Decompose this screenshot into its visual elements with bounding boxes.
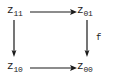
arrow-left-z11-to-z10 (8, 20, 20, 58)
node-z10: z10 (7, 61, 23, 74)
node-z10-base: z (7, 60, 14, 72)
arrow-right-z01-to-z00 (81, 20, 93, 58)
arrow-bottom-z10-to-z00 (30, 62, 78, 74)
node-z00: z00 (77, 61, 93, 74)
node-z01-subscript: 01 (84, 9, 93, 18)
arrow-right-label-f: f (96, 34, 101, 43)
node-z11-base: z (7, 4, 14, 16)
node-z00-subscript: 00 (84, 65, 93, 74)
node-z10-subscript: 10 (14, 65, 23, 74)
node-z11-subscript: 11 (14, 9, 23, 18)
arrow-top-z11-to-z01 (30, 6, 78, 18)
commutative-diagram: z11 z01 z10 z00 f (0, 0, 114, 83)
node-z11: z11 (7, 5, 23, 18)
node-z01: z01 (77, 5, 93, 18)
